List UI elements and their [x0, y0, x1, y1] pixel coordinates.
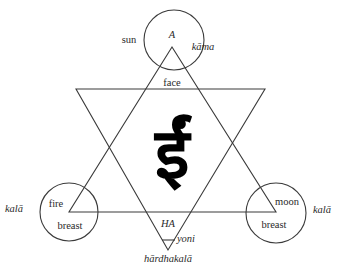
top-circle: [144, 10, 204, 70]
left-breast-label: breast: [57, 220, 82, 231]
central-glyph: ईं: [153, 113, 193, 195]
a-label: A: [168, 29, 176, 40]
hexagram-diagram: ईं sun A kāma face kalā fire breast moon…: [0, 0, 338, 270]
left-kala-label: kalā: [5, 203, 24, 214]
right-circle: [246, 183, 306, 243]
moon-label: moon: [275, 196, 300, 207]
hardhakala-label: hārdhakalā: [144, 253, 193, 264]
face-label: face: [163, 77, 181, 88]
right-kala-label: kalā: [313, 204, 332, 215]
sun-label: sun: [122, 34, 137, 45]
kama-label: kāma: [192, 41, 215, 52]
right-breast-label: breast: [261, 219, 286, 230]
fire-label: fire: [49, 198, 64, 209]
yoni-label: yoni: [176, 233, 195, 244]
ha-label: HA: [160, 218, 176, 229]
